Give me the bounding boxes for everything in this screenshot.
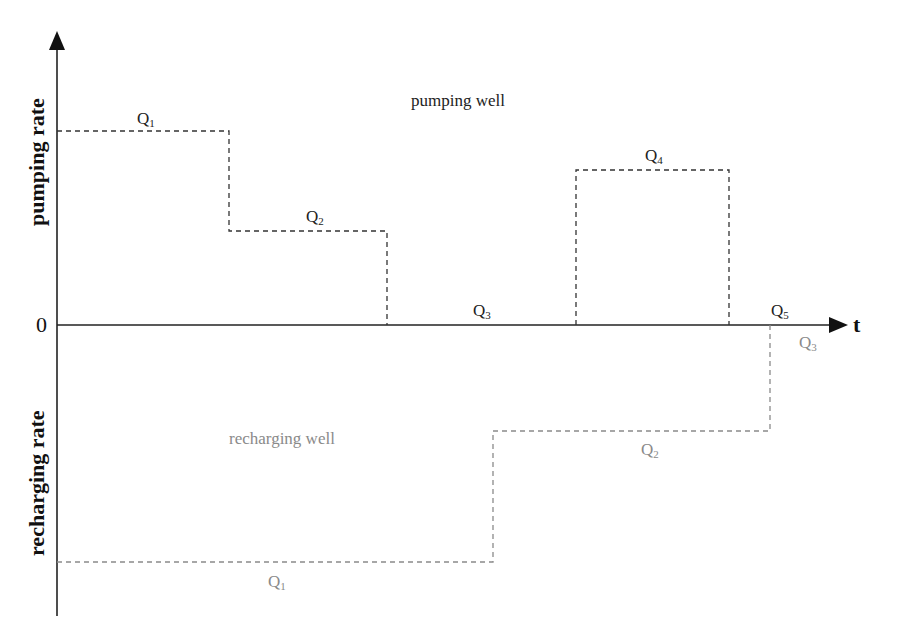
pumping-q4-pulse [576,170,729,325]
x-axis-arrow-icon [829,317,848,333]
pumping-q5-label: Q5 [771,302,789,321]
x-axis-title: t [853,314,860,336]
pumping-q1-label: Q1 [137,110,155,129]
recharging-well-label: recharging well [229,430,335,447]
recharging-q2-label: Q2 [641,441,659,460]
pumping-rate-profile [57,131,387,325]
origin-label: 0 [36,314,47,336]
recharging-q3-label: Q3 [799,334,817,353]
recharging-rate-profile [57,325,770,562]
recharging-q1-label: Q1 [268,573,286,592]
y-axis-arrow-icon [49,31,65,50]
pumping-q3-label: Q3 [473,302,491,321]
pumping-well-label: pumping well [411,92,505,109]
pumping-q2-label: Q2 [306,208,324,227]
y-axis-positive-title: pumping rate [26,98,48,226]
y-axis-negative-title: recharging rate [26,410,48,556]
pumping-q4-label: Q4 [645,147,663,166]
